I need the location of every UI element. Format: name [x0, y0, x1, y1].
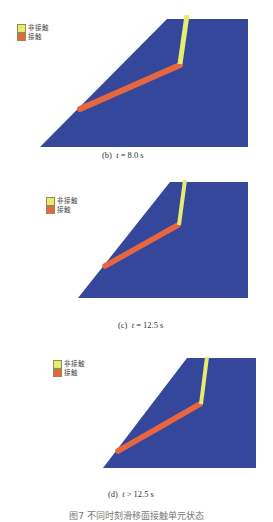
legend-item-contact: 接触	[53, 369, 85, 378]
non-contact-swatch	[17, 24, 26, 33]
panel-c: 非接触 接触 (c) t = 12.5 s	[0, 170, 273, 340]
slope-diagram-c	[0, 170, 273, 340]
legend-label: 接触	[64, 369, 78, 377]
legend-label: 接触	[28, 33, 42, 41]
legend: 非接触 接触	[46, 197, 78, 214]
contact-swatch	[17, 33, 26, 42]
contact-swatch	[53, 369, 62, 378]
panel-caption: (c) t = 12.5 s	[118, 320, 163, 330]
legend-label: 非接触	[57, 197, 78, 205]
legend-item-contact: 接触	[46, 206, 78, 215]
legend-label: 非接触	[28, 24, 49, 32]
non-contact-swatch	[53, 360, 62, 369]
legend: 非接触 接触	[53, 360, 85, 377]
legend: 非接触 接触	[17, 24, 49, 41]
panel-d: 非接触 接触 (d) t > 12.5 s	[0, 340, 273, 510]
legend-label: 接触	[57, 206, 71, 214]
panel-b: 非接触 接触 (b) t = 8.0 s	[0, 0, 273, 170]
legend-item-non-contact: 非接触	[53, 360, 85, 369]
panel-caption: (b) t = 8.0 s	[102, 150, 144, 160]
slope-diagram-d	[0, 340, 273, 510]
panel-caption: (d) t > 12.5 s	[108, 489, 154, 499]
contact-swatch	[46, 206, 55, 215]
legend-item-contact: 接触	[17, 33, 49, 42]
figure-caption: 图7 不同时刻滑移面接触单元状态	[0, 509, 273, 522]
non-contact-swatch	[46, 197, 55, 206]
legend-item-non-contact: 非接触	[46, 197, 78, 206]
slope-body	[78, 182, 248, 298]
legend-item-non-contact: 非接触	[17, 24, 49, 33]
legend-label: 非接触	[64, 360, 85, 368]
